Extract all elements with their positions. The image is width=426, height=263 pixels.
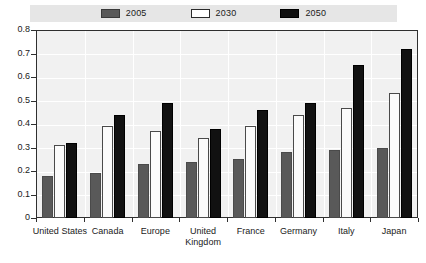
category-separator [85,31,86,217]
y-axis-tick-label: 0.3 [0,143,30,152]
legend-swatch-icon-2030 [191,9,210,18]
x-axis-tick [370,218,371,222]
category-separator [133,31,134,217]
bar-chart: 2005 2030 2050 0.80.70.60.50.40.30.20.10… [0,0,426,263]
x-axis-tick [132,218,133,222]
gridline [37,172,417,173]
x-axis-tick [179,218,180,222]
plot-area [36,30,418,218]
y-axis-tick [31,77,36,78]
legend-item-2005: 2005 [101,9,147,18]
legend-swatch-icon-2005 [101,9,120,18]
x-axis-tick [84,218,85,222]
y-axis-tick-label: 0.6 [0,72,30,81]
category-separator [180,31,181,217]
x-axis-category-label: Japan [362,226,426,237]
y-axis-tick-label: 0.7 [0,49,30,58]
legend-swatch-icon-2050 [280,9,299,18]
gridline [37,54,417,55]
category-separator [324,31,325,217]
y-axis-tick-label: 0.2 [0,166,30,175]
y-axis-tick-label: 0.5 [0,96,30,105]
legend-item-2030: 2030 [191,9,237,18]
gridline [37,148,417,149]
legend-label-2050: 2050 [305,9,326,18]
legend-label-2005: 2005 [126,9,147,18]
x-axis-tick [275,218,276,222]
y-axis-tick [31,148,36,149]
y-axis-tick [31,124,36,125]
legend-label-2030: 2030 [216,9,237,18]
y-axis-tick [31,30,36,31]
y-axis-tick [31,195,36,196]
y-axis-tick-label: 0 [0,213,30,222]
y-axis-tick [31,101,36,102]
gridline [37,78,417,79]
x-axis-tick [418,218,419,222]
gridline [37,125,417,126]
category-separator [228,31,229,217]
legend-item-2050: 2050 [280,9,326,18]
chart-legend: 2005 2030 2050 [30,5,397,22]
gridline [37,195,417,196]
gridline [37,101,417,102]
category-separator [276,31,277,217]
y-axis-tick [31,54,36,55]
y-axis-tick-label: 0.8 [0,25,30,34]
x-axis-tick [36,218,37,222]
y-axis-tick-label: 0.4 [0,119,30,128]
x-axis-tick [227,218,228,222]
x-axis-tick [323,218,324,222]
category-separator [371,31,372,217]
y-axis-tick-label: 0.1 [0,190,30,199]
y-axis-tick [31,171,36,172]
